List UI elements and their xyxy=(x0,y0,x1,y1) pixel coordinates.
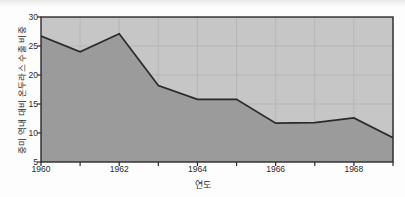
x-tick-label: 1964 xyxy=(177,164,217,174)
x-tick-label: 1960 xyxy=(21,164,61,174)
x-tick-label: 1968 xyxy=(334,164,374,174)
x-axis-tick-labels: 19601962196419661968 xyxy=(0,164,405,178)
x-axis-title: 연도 xyxy=(0,178,405,191)
x-tick-label: 1966 xyxy=(256,164,296,174)
x-tick-label: 1962 xyxy=(99,164,139,174)
area-chart-figure: 30252015105 19601962196419661968 중미 역내 대… xyxy=(0,0,405,197)
y-axis-title: 중미 역내 대비 온두라스 수출 비중 xyxy=(15,15,27,165)
